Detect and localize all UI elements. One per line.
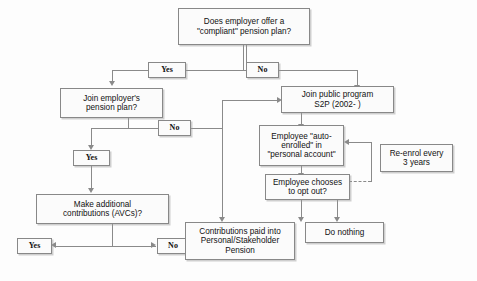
node-make-additional-contributions[interactable]: Make additional contributions (AVCs)?	[36, 194, 169, 224]
node-employer-plan-line1: Join employer's	[83, 94, 140, 103]
connector-employer-yes-drop	[91, 128, 92, 146]
node-does-employer-offer-plan[interactable]: Does employer offer a "compliant" pensio…	[178, 8, 310, 45]
node-public-program-line1: Join public program	[302, 90, 373, 99]
node-join-employer-plan[interactable]: Join employer's pension plan?	[60, 88, 163, 118]
connector-top-double-left	[243, 45, 244, 70]
connector-no-drop	[357, 70, 358, 86]
connector-employer-yes-left	[91, 128, 129, 129]
label-top-no[interactable]: No	[246, 62, 279, 78]
arrow-into-auto-enrolled-reenrol	[344, 139, 349, 145]
arrow-into-employer-plan	[109, 81, 115, 86]
node-employee-auto-enrolled[interactable]: Employee "auto- enrolled" in "personal a…	[259, 125, 344, 166]
connector-reenrol-dashed	[349, 181, 371, 182]
node-employee-chooses-opt-out[interactable]: Employee chooses to opt out?	[265, 174, 350, 200]
node-contributions-line3: Pension	[225, 246, 255, 255]
connector-trunk-to-public	[222, 100, 278, 101]
node-opt-out-line1: Employee chooses	[273, 178, 342, 187]
node-do-nothing[interactable]: Do nothing	[305, 222, 384, 243]
arrow-into-contributions-right	[298, 217, 304, 222]
node-contributions-line1: Contributions paid into	[199, 227, 280, 236]
label-employer-no[interactable]: No	[158, 120, 191, 136]
node-re-enrol-every-3-years[interactable]: Re-enrol every 3 years	[380, 144, 453, 172]
node-auto-enrolled-line2: enrolled" in	[281, 141, 322, 150]
arrow-into-avc-no	[151, 242, 156, 248]
connector-reenrol-return	[349, 142, 372, 143]
arrow-into-avc	[88, 188, 94, 193]
connector-employer-stem	[128, 118, 129, 128]
connector-avc-stem	[112, 224, 113, 246]
node-contributions-paid-into[interactable]: Contributions paid into Personal/Stakeho…	[185, 222, 295, 260]
label-top-yes[interactable]: Yes	[148, 62, 186, 78]
node-title-line2: "compliant" pension plan?	[197, 27, 291, 36]
node-title-line1: Does employer offer a	[204, 17, 284, 26]
label-employer-yes[interactable]: Yes	[73, 150, 110, 166]
node-avc-line1: Make additional	[74, 200, 131, 209]
node-join-public-program[interactable]: Join public program S2P (2002- )	[281, 86, 394, 113]
node-opt-out-line2: to opt out?	[288, 187, 327, 196]
node-public-program-line2: S2P (2002- )	[314, 100, 360, 109]
node-do-nothing-label: Do nothing	[308, 228, 381, 237]
node-avc-line2: contributions (AVCs)?	[63, 209, 142, 218]
flowchart-canvas: Does employer offer a "compliant" pensio…	[0, 0, 477, 281]
label-avc-yes[interactable]: Yes	[17, 238, 52, 254]
node-contributions-line2: Personal/Stakeholder	[201, 236, 279, 245]
node-re-enrol-line2: 3 years	[403, 158, 430, 167]
node-auto-enrolled-line3: "personal account"	[267, 150, 335, 159]
connector-no-trunk	[222, 100, 223, 219]
node-re-enrol-line1: Re-enrol every	[390, 149, 444, 158]
connector-yes-to-avc	[91, 166, 92, 190]
node-auto-enrolled-line1: Employee "auto-	[271, 132, 331, 141]
connector-reenrol-riser	[371, 142, 372, 182]
node-employer-plan-line2: pension plan?	[86, 103, 137, 112]
connector-avc-split-bar	[56, 246, 156, 247]
